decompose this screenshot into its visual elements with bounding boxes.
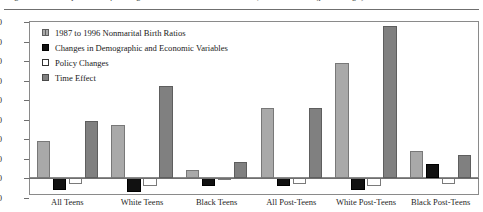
legend-item-label: Changes in Demographic and Economic Vari… xyxy=(55,43,228,53)
bar xyxy=(111,125,125,178)
y-axis-tick-label: 0 xyxy=(0,173,2,183)
bar xyxy=(234,162,248,178)
y-axis-tick-mark xyxy=(24,61,29,62)
y-axis-tick-mark xyxy=(24,159,29,160)
zero-baseline xyxy=(29,178,479,179)
x-axis-label: White Post-Teens xyxy=(329,197,404,207)
x-axis-label: All Teens xyxy=(30,197,105,207)
solid-gray-swatch-icon xyxy=(42,74,49,81)
x-axis-label: White Teens xyxy=(105,197,180,207)
y-axis-tick-label: 10 xyxy=(0,154,2,164)
y-axis: 80706050403020100-10 xyxy=(0,0,29,212)
bar-group xyxy=(403,22,478,195)
bar xyxy=(202,178,216,186)
figure-container: Figure 2. Decomposition of Changes in No… xyxy=(0,0,483,212)
x-axis-label: All Post-Teens xyxy=(254,197,329,207)
y-axis-tick-label: 20 xyxy=(0,134,2,144)
bar xyxy=(309,108,323,178)
y-axis-tick-label: 80 xyxy=(0,17,2,27)
figure-caption-strip: Figure 2. Decomposition of Changes in No… xyxy=(0,0,483,9)
bar-group xyxy=(329,22,404,195)
chart-legend: 1987 to 1996 Nonmarital Birth RatiosChan… xyxy=(42,26,228,86)
figure-caption: Figure 2. Decomposition of Changes in No… xyxy=(6,0,477,1)
legend-item-label: Time Effect xyxy=(55,73,96,83)
bar xyxy=(127,178,141,192)
horizontal-rule xyxy=(4,9,479,10)
bar-group xyxy=(254,22,329,195)
y-axis-tick-mark xyxy=(24,198,29,199)
bar xyxy=(37,141,51,178)
hatched-gray-swatch-icon xyxy=(42,29,49,36)
legend-item: Changes in Demographic and Economic Vari… xyxy=(42,41,228,54)
bar xyxy=(85,121,99,178)
bar xyxy=(458,155,472,178)
y-axis-tick-label: 30 xyxy=(0,115,2,125)
bar xyxy=(367,178,381,186)
bar xyxy=(383,26,397,178)
legend-item-label: 1987 to 1996 Nonmarital Birth Ratios xyxy=(55,28,186,38)
bar xyxy=(277,178,291,186)
legend-item: Time Effect xyxy=(42,71,228,84)
bar xyxy=(186,170,200,178)
bar xyxy=(410,151,424,178)
bar xyxy=(335,63,349,178)
y-axis-tick-mark xyxy=(24,22,29,23)
legend-item: Policy Changes xyxy=(42,56,228,69)
bar xyxy=(426,164,440,178)
y-axis-tick-mark xyxy=(24,100,29,101)
legend-item-label: Policy Changes xyxy=(55,58,109,68)
bar xyxy=(53,178,67,190)
y-axis-tick-mark xyxy=(24,81,29,82)
y-axis-tick-label: 40 xyxy=(0,95,2,105)
y-axis-tick-label: 50 xyxy=(0,76,2,86)
legend-item: 1987 to 1996 Nonmarital Birth Ratios xyxy=(42,26,228,39)
y-axis-tick-label: 70 xyxy=(0,37,2,47)
y-axis-tick-mark xyxy=(24,139,29,140)
y-axis-tick-mark xyxy=(24,42,29,43)
y-axis-tick-mark xyxy=(24,120,29,121)
x-axis-label: Black Teens xyxy=(179,197,254,207)
open-white-swatch-icon xyxy=(42,59,49,66)
y-axis-tick-label: -10 xyxy=(0,193,2,203)
bar xyxy=(261,108,275,178)
x-axis-labels: All TeensWhite TeensBlack TeensAll Post-… xyxy=(30,197,478,211)
bar xyxy=(159,86,173,178)
solid-black-swatch-icon xyxy=(42,44,49,51)
bar xyxy=(351,178,365,190)
x-axis-label: Black Post-Teens xyxy=(403,197,478,207)
bar xyxy=(143,178,157,186)
y-axis-tick-label: 60 xyxy=(0,56,2,66)
